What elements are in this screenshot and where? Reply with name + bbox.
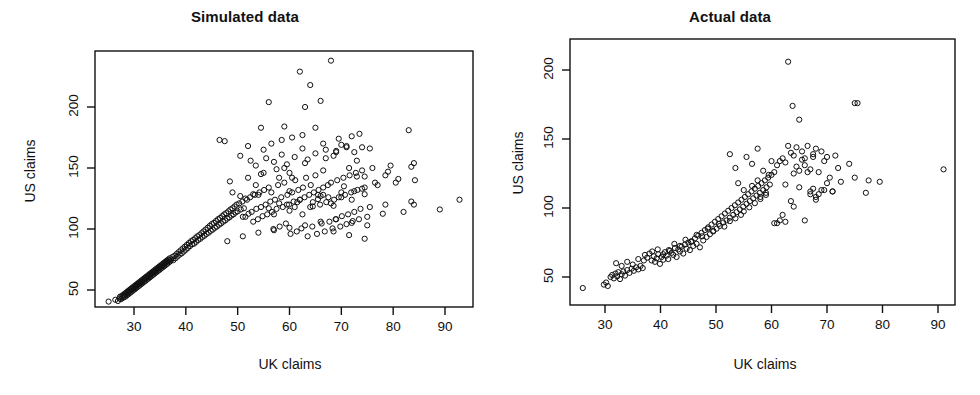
x-tick-label-simulated-4: 70 — [323, 319, 359, 334]
y-axis-title-actual: US claims — [510, 103, 526, 223]
y-axis-title-simulated: US claims — [22, 111, 38, 231]
y-tick-label-actual-2: 150 — [541, 118, 556, 158]
y-tick-label-simulated-1: 100 — [66, 208, 81, 248]
x-tick-label-actual-4: 70 — [809, 317, 845, 332]
plot-area-actual — [490, 0, 980, 395]
x-tick-label-actual-0: 30 — [587, 317, 623, 332]
x-tick-label-actual-1: 40 — [643, 317, 679, 332]
panel-actual-data: Actual data UK claims US claims 30405060… — [490, 0, 980, 395]
x-tick-label-actual-6: 90 — [920, 317, 956, 332]
y-axis-ticks-simulated — [87, 107, 95, 290]
y-tick-label-actual-0: 50 — [541, 256, 556, 296]
x-tick-label-simulated-5: 80 — [375, 319, 411, 334]
plot-frame-simulated — [95, 51, 473, 307]
y-tick-label-actual-3: 200 — [541, 49, 556, 89]
x-tick-label-actual-3: 60 — [754, 317, 790, 332]
x-tick-label-simulated-3: 60 — [272, 319, 308, 334]
x-tick-label-simulated-0: 30 — [116, 319, 152, 334]
y-tick-label-simulated-0: 50 — [66, 269, 81, 309]
x-axis-title-simulated: UK claims — [195, 356, 385, 372]
figure-scatterplot-pair: Simulated data UK claims US claims 30405… — [0, 0, 980, 395]
y-tick-label-simulated-2: 150 — [66, 147, 81, 187]
x-tick-label-actual-5: 80 — [865, 317, 901, 332]
x-tick-label-simulated-1: 40 — [168, 319, 204, 334]
scatter-points-simulated — [106, 58, 462, 304]
y-axis-ticks-actual — [562, 70, 570, 277]
plot-area-simulated — [0, 0, 490, 395]
panel-simulated-data: Simulated data UK claims US claims 30405… — [0, 0, 490, 395]
y-tick-label-actual-1: 100 — [541, 187, 556, 227]
x-tick-label-simulated-6: 90 — [427, 319, 463, 334]
scatter-points-actual — [580, 59, 946, 291]
y-tick-label-simulated-3: 200 — [66, 86, 81, 126]
plot-frame-actual — [570, 39, 955, 305]
x-tick-label-simulated-2: 50 — [220, 319, 256, 334]
x-axis-ticks-simulated — [134, 307, 445, 315]
x-tick-label-actual-2: 50 — [698, 317, 734, 332]
x-axis-title-actual: UK claims — [670, 356, 860, 372]
x-axis-ticks-actual — [605, 305, 938, 313]
